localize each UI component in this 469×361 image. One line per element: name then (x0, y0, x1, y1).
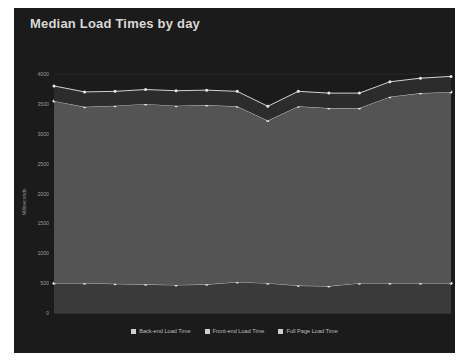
y-tick-label: 1500 (37, 220, 49, 226)
legend-label: Front-end Load Time (213, 328, 265, 334)
chart-widget: Median Load Times by day 050010001500200… (14, 8, 455, 353)
data-point-marker[interactable] (388, 80, 391, 83)
data-point-marker[interactable] (450, 75, 453, 78)
series-area (54, 92, 451, 286)
y-tick-label: 3000 (37, 131, 49, 137)
legend-label: Back-end Load Time (139, 328, 190, 334)
y-axis-title: Milliseconds (21, 188, 27, 216)
y-tick-label: 500 (40, 280, 49, 286)
y-tick-label: 4000 (37, 71, 49, 77)
legend-label: Full Page Load Time (286, 328, 337, 334)
data-point-marker[interactable] (297, 90, 300, 93)
legend-swatch-icon (131, 329, 136, 334)
data-point-marker[interactable] (205, 89, 208, 92)
y-tick-label: 3500 (37, 101, 49, 107)
data-point-marker[interactable] (53, 84, 56, 87)
legend-item[interactable]: Full Page Load Time (278, 328, 337, 334)
data-point-marker[interactable] (266, 105, 269, 108)
y-tick-label: 2500 (37, 161, 49, 167)
legend-swatch-icon (205, 329, 210, 334)
legend-item[interactable]: Front-end Load Time (205, 328, 265, 334)
chart-svg[interactable]: 05001000150020002500300035004000 Sunday … (14, 52, 455, 317)
data-point-marker[interactable] (175, 89, 178, 92)
data-point-marker[interactable] (114, 90, 117, 93)
y-tick-label: 1000 (37, 250, 49, 256)
chart-legend: Back-end Load TimeFront-end Load TimeFul… (14, 328, 455, 334)
data-point-marker[interactable] (83, 90, 86, 93)
data-point-marker[interactable] (358, 92, 361, 95)
legend-item[interactable]: Back-end Load Time (131, 328, 190, 334)
data-point-marker[interactable] (144, 88, 147, 91)
y-tick-label: 2000 (37, 191, 49, 197)
data-point-marker[interactable] (236, 90, 239, 93)
data-point-marker[interactable] (419, 77, 422, 80)
chart-title: Median Load Times by day (30, 16, 200, 31)
data-point-marker[interactable] (327, 92, 330, 95)
legend-swatch-icon (278, 329, 283, 334)
series-area (54, 282, 451, 313)
series-areas (53, 75, 453, 313)
plot-area[interactable]: 05001000150020002500300035004000 Sunday … (14, 52, 455, 317)
y-tick-label: 0 (46, 310, 49, 316)
